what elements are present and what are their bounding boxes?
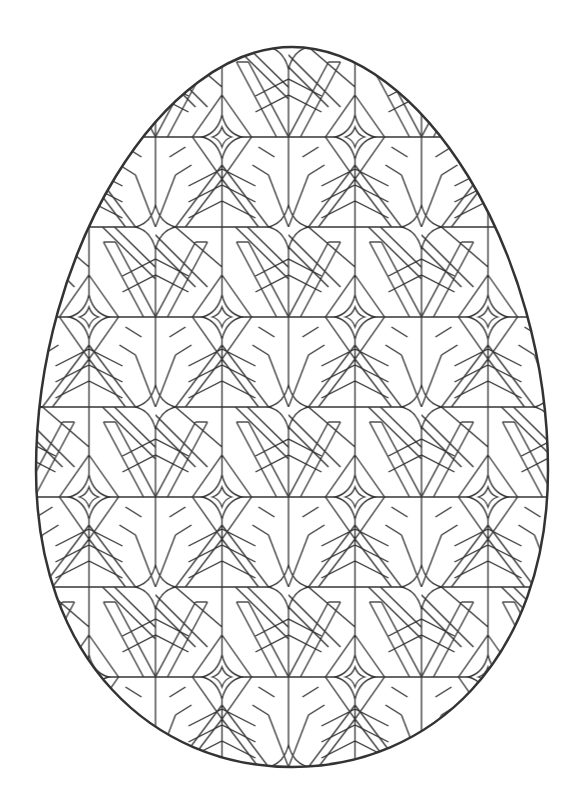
coloring-page-canvas — [0, 0, 582, 811]
egg-pattern-fill — [0, 0, 582, 811]
